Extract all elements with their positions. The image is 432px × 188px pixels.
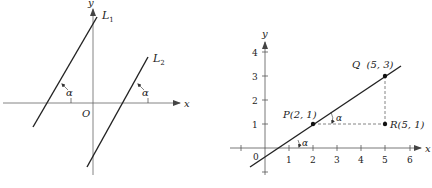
left-x-label: x — [184, 98, 190, 109]
alpha-label-l2: α — [142, 87, 149, 98]
point-q — [383, 74, 387, 78]
angle-mark-upper — [331, 112, 333, 123]
left-origin-label: O — [82, 108, 90, 119]
right-origin-label: 0 — [253, 152, 259, 162]
x-tick-1: 1 — [286, 155, 292, 165]
l1-label: L1 — [101, 9, 114, 24]
label-p: P(2, 1) — [282, 109, 317, 120]
line-l2 — [87, 57, 148, 167]
x-tick-6: 6 — [407, 155, 413, 165]
y-tick-1: 1 — [252, 120, 258, 130]
x-tick-2: 2 — [310, 155, 316, 165]
x-tick-3: 3 — [334, 155, 340, 165]
l2-label: L2 — [152, 52, 165, 67]
left-y-label: y — [87, 0, 94, 8]
right-figure: y x 0 1 2 3 4 5 6 1 2 3 4 P(2, 1) Q (5, … — [230, 28, 431, 175]
right-x-label: x — [425, 143, 431, 154]
alpha-label-upper: α — [336, 113, 342, 123]
point-r — [383, 122, 387, 126]
left-figure: y x O L1 L2 α α — [3, 0, 190, 175]
line-pq — [250, 66, 401, 167]
y-tick-4: 4 — [252, 48, 258, 58]
label-q: Q (5, 3) — [352, 59, 394, 70]
right-y-label: y — [261, 28, 268, 39]
x-tick-5: 5 — [382, 155, 388, 165]
angle-mark-lower — [298, 140, 299, 147]
alpha-label-lower: α — [302, 138, 308, 148]
figure-canvas: y x O L1 L2 α α — [0, 0, 432, 188]
y-tick-3: 3 — [252, 72, 258, 82]
x-tick-4: 4 — [358, 155, 364, 165]
y-tick-2: 2 — [252, 96, 258, 106]
point-p — [311, 122, 315, 126]
alpha-label-l1: α — [66, 87, 73, 98]
label-r: R(5, 1) — [389, 119, 425, 130]
